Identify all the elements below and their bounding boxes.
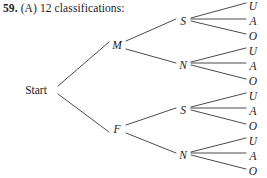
tree-node-m: M	[111, 39, 123, 51]
tree-branch-edge-m-s	[126, 19, 176, 41]
tree-node-root-start: Start	[25, 84, 48, 96]
tree-branch-edge-mn-o	[191, 65, 246, 79]
tree-branch-edge-fn-u	[191, 138, 246, 152]
tree-diagram: StartMFSNSNUAOUAOUAOUAO	[0, 0, 267, 178]
tree-leaf-f-n-a: A	[248, 150, 257, 162]
tree-edges	[58, 3, 246, 169]
tree-leaf-f-n-o: O	[249, 165, 258, 177]
tree-leaf-f-s-o: O	[249, 120, 258, 132]
tree-leaf-f-s-a: A	[248, 105, 257, 117]
tree-branch-edge-mn-u	[191, 48, 246, 62]
tree-leaf-m-n-u: U	[249, 45, 258, 57]
tree-branch-edge-ms-u	[191, 3, 246, 18]
tree-node-f-n: N	[178, 149, 188, 161]
tree-branch-edge-f-s	[126, 108, 176, 125]
tree-leaf-f-s-u: U	[249, 90, 258, 102]
page-canvas: 59. (A) 12 classifications: StartMFSNSNU…	[0, 0, 267, 178]
tree-branch-edge-start-f	[58, 94, 109, 132]
tree-leaf-m-s-o: O	[249, 30, 258, 42]
tree-leaf-f-n-u: U	[249, 135, 258, 147]
tree-node-m-n: N	[178, 59, 188, 71]
tree-leaf-m-s-u: U	[249, 0, 258, 12]
tree-nodes: StartMFSNSNUAOUAOUAOUAO	[25, 0, 258, 177]
tree-leaf-m-s-a: A	[248, 15, 257, 27]
tree-branch-edge-start-m	[58, 42, 109, 86]
tree-branch-edge-fs-o	[191, 110, 246, 124]
tree-node-f: F	[112, 123, 121, 135]
tree-leaf-m-n-o: O	[249, 75, 258, 87]
tree-branch-edge-fn-o	[191, 155, 246, 169]
tree-node-m-s: S	[180, 15, 186, 27]
tree-branch-edge-ms-o	[191, 21, 246, 34]
tree-node-f-s: S	[180, 104, 186, 116]
tree-branch-edge-f-n	[126, 133, 176, 153]
tree-branch-edge-m-n	[126, 49, 176, 63]
tree-leaf-m-n-a: A	[248, 60, 257, 72]
tree-branch-edge-fs-u	[191, 93, 246, 107]
